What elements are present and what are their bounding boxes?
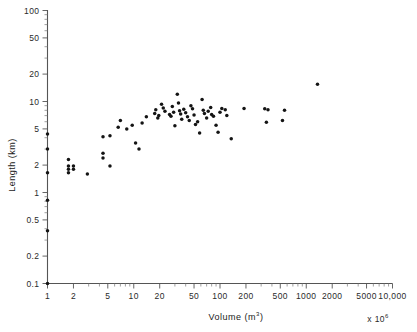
data-point [134, 141, 138, 145]
data-point [281, 119, 285, 123]
data-point [186, 115, 190, 119]
data-point [189, 104, 193, 108]
y-tick-label: 0.2 [26, 251, 39, 261]
data-point [225, 114, 229, 118]
data-point [163, 110, 167, 114]
data-point [202, 109, 206, 113]
data-point [67, 168, 71, 172]
data-point [176, 93, 180, 97]
x-tick-label: 1 [45, 291, 50, 301]
data-point [72, 168, 76, 172]
data-point [172, 111, 176, 115]
data-point [160, 103, 164, 107]
data-point [283, 109, 287, 113]
y-axis-title: Length (km) [7, 138, 17, 192]
data-point [67, 158, 71, 162]
data-point [263, 107, 267, 111]
data-point [101, 156, 105, 160]
chart-figure: 0.10.20.51251020501001251020501002005001… [0, 0, 417, 332]
data-point [46, 132, 50, 136]
x-axis-title: Volume (m3) [209, 311, 264, 322]
data-point [220, 107, 224, 111]
data-point [179, 112, 183, 116]
data-point [67, 171, 71, 175]
data-point [184, 111, 188, 115]
data-point [191, 107, 195, 111]
scatter-plot-svg: 0.10.20.51251020501001251020501002005001… [0, 0, 417, 332]
x-tick-label: 2 [71, 291, 76, 301]
data-point [157, 114, 161, 118]
data-point [229, 137, 233, 141]
data-point [137, 147, 141, 151]
data-point [162, 106, 166, 110]
data-point [218, 111, 222, 115]
data-point [46, 199, 50, 203]
x-tick-label: 500 [273, 291, 288, 301]
x-tick-label: 1000 [296, 291, 317, 301]
data-point [212, 114, 216, 118]
data-point [46, 229, 50, 233]
y-tick-label: 5 [34, 124, 39, 134]
y-tick-label: 0.5 [26, 215, 39, 225]
data-point [116, 126, 120, 130]
y-tick-label: 50 [29, 33, 39, 43]
data-point [46, 147, 50, 151]
y-tick-label: 100 [24, 6, 39, 16]
data-point [266, 108, 270, 112]
data-point [153, 112, 157, 116]
x-tick-label: 20 [155, 291, 165, 301]
data-point [192, 113, 196, 117]
data-point [206, 110, 210, 114]
data-point [182, 108, 186, 112]
data-point [72, 164, 76, 168]
data-point [188, 119, 192, 123]
data-point [198, 131, 202, 135]
data-point [130, 123, 134, 127]
data-point [180, 117, 184, 121]
data-point [46, 171, 50, 175]
data-point [203, 112, 207, 116]
data-point [223, 108, 227, 112]
data-point [209, 106, 213, 110]
data-point [101, 152, 105, 156]
data-point [140, 121, 144, 125]
data-point [67, 164, 71, 168]
y-tick-label: 0.1 [26, 279, 39, 289]
data-point [178, 109, 182, 113]
data-point [214, 123, 218, 127]
data-point [119, 119, 123, 123]
data-point [46, 282, 50, 286]
x-tick-label: 10,000 [378, 291, 406, 301]
y-tick-label: 2 [34, 160, 39, 170]
x-tick-label: 5000 [356, 291, 377, 301]
data-point [265, 121, 269, 125]
data-point [200, 98, 204, 102]
data-point [125, 127, 128, 131]
data-point [205, 116, 209, 120]
data-point [316, 82, 320, 86]
data-point [108, 164, 112, 168]
data-point [169, 114, 173, 118]
data-point [173, 124, 177, 128]
x-tick-label: 10 [129, 291, 139, 301]
x-tick-label: 2000 [322, 291, 343, 301]
data-point [242, 107, 246, 111]
x-tick-label: 5 [105, 291, 110, 301]
scatter-points [46, 82, 319, 285]
data-point [216, 130, 220, 134]
y-tick-label: 20 [29, 69, 39, 79]
x-tick-label: 200 [238, 291, 253, 301]
data-point [145, 115, 149, 119]
data-point [86, 172, 90, 176]
x-tick-label: 100 [212, 291, 227, 301]
y-tick-label: 10 [29, 97, 39, 107]
data-point [154, 108, 158, 112]
data-point [177, 101, 181, 105]
y-tick-label: 1 [34, 188, 39, 198]
data-point [108, 134, 112, 138]
x-axis-multiplier: x 106 [367, 313, 389, 324]
data-point [196, 120, 200, 124]
x-tick-label: 50 [189, 291, 199, 301]
data-point [171, 105, 175, 109]
data-point [101, 135, 105, 139]
